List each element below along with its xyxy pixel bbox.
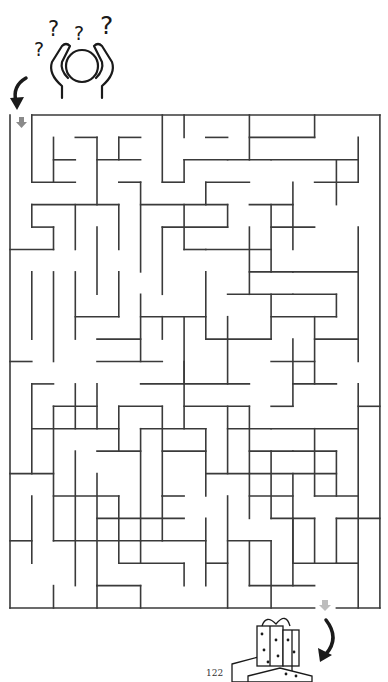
question-mark-icon: ? xyxy=(74,22,84,44)
gift-boxes-illustration xyxy=(232,618,312,682)
maze-walls xyxy=(10,115,380,608)
finish-curved-arrow-icon xyxy=(318,620,333,662)
head-icon xyxy=(66,50,98,82)
question-mark-icon: ? xyxy=(100,11,113,40)
page-number: 122 xyxy=(206,668,223,678)
confused-person-illustration xyxy=(51,44,113,98)
start-arrow-icon xyxy=(16,117,27,128)
question-mark-icon: ? xyxy=(48,17,59,41)
question-mark-icon: ? xyxy=(34,38,44,60)
exit-arrow-icon xyxy=(319,600,331,611)
start-curved-arrow-icon xyxy=(10,78,26,110)
maze-canvas: ? ? ? ? xyxy=(0,0,388,682)
